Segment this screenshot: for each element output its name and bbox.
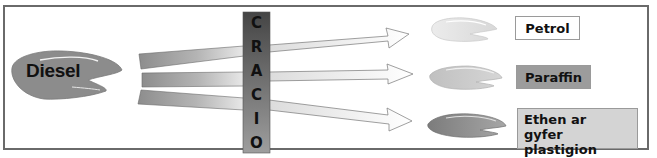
cracking-letter: I [254,112,260,127]
product-text-line2: gyfer plastigion [524,127,631,157]
arrow-to-paraffin [269,64,413,84]
cracking-letter: O [250,136,263,151]
product-text: Paraffin [525,70,582,85]
product-text-line1: Ethen ar [524,112,631,127]
input-bars [138,46,244,110]
product-label-paraffin: Paraffin [516,65,591,89]
source-label-diesel: Diesel [26,60,80,82]
cracking-letter: A [251,64,263,79]
petrol-blob [432,18,497,42]
cracking-label: C R A C I O [243,12,270,153]
product-label-petrol: Petrol [515,16,580,40]
paraffin-blob [430,66,502,89]
cracking-letter: C [251,88,262,103]
plastics-blob [428,114,506,137]
product-text: Petrol [525,21,569,36]
arrow-to-plastics [269,100,412,131]
cracking-letter: C [251,16,262,31]
cracking-letter: R [251,40,263,55]
arrow-to-petrol [269,28,409,52]
product-label-ethene: Ethen ar gyfer plastigion [517,108,638,149]
